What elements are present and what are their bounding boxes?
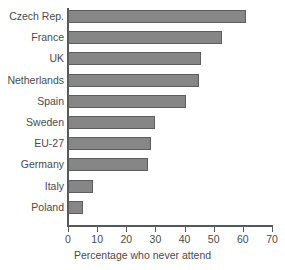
x-axis-tick-label: 50 [199,232,229,246]
category-label: Germany [0,158,64,171]
plot-area [68,8,272,225]
bar [68,137,151,150]
category-label: Poland [0,201,64,214]
category-label: Czech Rep. [0,10,64,23]
bar [68,201,83,214]
x-axis-tick-label: 30 [140,232,170,246]
x-axis-tick-label: 10 [82,232,112,246]
bar [68,158,148,171]
category-label: Sweden [0,116,64,129]
bar [68,95,186,108]
category-label: EU-27 [0,137,64,150]
x-axis-tick-label: 40 [170,232,200,246]
x-axis-tick-label: 60 [228,232,258,246]
category-label: Italy [0,180,64,193]
x-axis-title: Percentage who never attend [0,249,285,261]
bar [68,31,222,44]
category-label: UK [0,52,64,65]
category-label: France [0,31,64,44]
x-axis-tick-label: 20 [111,232,141,246]
bar-chart: Czech Rep.FranceUKNetherlandsSpainSweden… [0,0,285,270]
bar [68,52,201,65]
bar [68,116,155,129]
x-axis-tick-label: 70 [257,232,285,246]
x-axis-tick-label: 0 [53,232,83,246]
bar [68,10,246,23]
bar [68,180,93,193]
category-label: Spain [0,95,64,108]
bar [68,74,199,87]
category-label: Netherlands [0,74,64,87]
category-label-group: Czech Rep.FranceUKNetherlandsSpainSweden… [0,8,64,225]
